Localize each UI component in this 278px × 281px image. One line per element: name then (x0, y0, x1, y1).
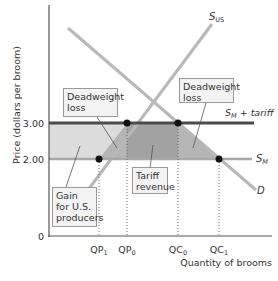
y-tick-0: 0 (38, 231, 44, 242)
y-axis-label: Price (dollars per broom) (11, 46, 22, 164)
s-m-label: SM (256, 153, 268, 166)
tariff-line2: revenue (136, 181, 164, 192)
demand-label: D (257, 185, 265, 196)
gain-line2: for U.S. (56, 201, 93, 212)
y-tick-200: 2.00 (23, 154, 44, 165)
dwl-left-line2: loss (67, 102, 114, 113)
x-tick-qp1: QP1 (90, 244, 107, 257)
dwl-right-line2: loss (183, 92, 230, 103)
deadweight-loss-left-box: Deadweight loss (63, 88, 118, 117)
deadweight-loss-right-box: Deadweight loss (179, 78, 234, 103)
point-qp0 (124, 120, 131, 127)
s-us-label: SUS (209, 11, 224, 24)
point-qp1 (96, 156, 103, 163)
x-tick-qc0: QC0 (169, 244, 187, 257)
dwl-left-line1: Deadweight (67, 91, 114, 102)
gain-line3: producers (56, 212, 93, 223)
dwl-right-line1: Deadweight (183, 81, 230, 92)
gain-for-producers-box: Gain for U.S. producers (52, 187, 97, 227)
point-qc1 (216, 156, 223, 163)
s-m-tariff-label: SM + tariff (225, 107, 275, 120)
tariff-revenue-box: Tariff revenue (132, 167, 168, 194)
x-tick-qc1: QC1 (210, 244, 228, 257)
gain-line1: Gain (56, 190, 93, 201)
y-tick-300: 3.00 (23, 118, 44, 129)
point-qc0 (175, 120, 182, 127)
x-tick-qp0: QP0 (118, 244, 135, 257)
x-axis-label: Quantity of brooms (180, 257, 272, 268)
tariff-line1: Tariff (136, 170, 164, 181)
tariff-diagram: Price (dollars per broom) 3.00 2.00 0 QP… (0, 0, 278, 281)
